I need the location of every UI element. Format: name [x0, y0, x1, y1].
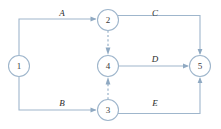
edge-e	[119, 77, 203, 114]
network-diagram-canvas: 1 2 4 3 5 A C D B E	[0, 0, 221, 129]
edge-a-path	[19, 19, 95, 56]
edge-dummy-2-4-arrowhead	[106, 48, 111, 56]
edge-d	[119, 64, 190, 69]
node-5-label: 5	[198, 61, 203, 71]
edge-label-c: C	[152, 8, 159, 18]
edge-a	[19, 17, 97, 56]
node-2-label: 2	[106, 15, 111, 25]
node-2[interactable]: 2	[98, 10, 119, 31]
edge-b-arrowhead	[91, 108, 97, 113]
edge-label-b: B	[59, 98, 65, 108]
edge-b-path	[19, 77, 95, 111]
edge-label-d: D	[151, 54, 159, 64]
node-3-label: 3	[106, 105, 111, 115]
edge-dummy-2-4	[106, 31, 111, 56]
edge-dummy-3-4-arrowhead	[106, 77, 111, 85]
node-4[interactable]: 4	[98, 56, 119, 77]
node-3[interactable]: 3	[98, 100, 119, 121]
edge-c	[119, 16, 203, 56]
edge-dummy-3-4	[106, 77, 111, 100]
edge-label-e: E	[151, 98, 158, 108]
edge-a-arrowhead	[91, 17, 97, 22]
network-diagram: 1 2 4 3 5 A C D B E	[0, 0, 221, 129]
node-4-label: 4	[106, 61, 111, 71]
edge-b	[19, 77, 97, 113]
node-1-label: 1	[17, 61, 22, 71]
edge-c-arrowhead	[198, 49, 203, 55]
edge-c-path	[119, 16, 201, 54]
edge-e-arrowhead	[198, 77, 203, 83]
node-1[interactable]: 1	[9, 56, 30, 77]
edge-d-arrowhead	[183, 64, 189, 69]
edge-e-path	[119, 79, 201, 114]
edge-label-a: A	[58, 8, 65, 18]
node-5[interactable]: 5	[190, 56, 211, 77]
